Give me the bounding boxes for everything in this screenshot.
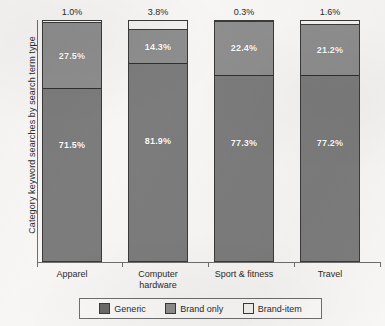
legend-item-brand-item[interactable]: Brand-item [243,303,302,314]
bar-total-label-sport-fitness: 0.3% [214,7,274,17]
bar-group-apparel[interactable]: 1.0% 27.5% 71.5% [42,20,102,262]
bar-segment-brand-item-computer-hardware[interactable]: 3.8% [129,21,187,30]
x-axis-tick-1 [122,263,123,267]
x-axis-tick-2 [208,263,209,267]
bar-segment-label-generic-sport-fitness: 77.3% [231,138,258,148]
bar-segment-label-brand-only-travel: 21.2% [317,45,344,55]
bar-segment-brand-only-sport-fitness[interactable]: 22.4% [215,22,273,76]
stacked-bar-travel[interactable]: 1.6% 21.2% 77.2% [300,20,360,262]
legend-swatch-generic-icon [99,303,110,314]
x-axis-tick-3 [294,263,295,267]
chart-legend: Generic Brand only Brand-item [79,298,322,319]
bar-group-sport-fitness[interactable]: 0.3% 22.4% 77.3% [214,20,274,262]
legend-item-brand-only[interactable]: Brand only [165,303,223,314]
bar-segment-brand-only-apparel[interactable]: 27.5% [43,23,101,89]
chart-figure: Category keyword searches by search term… [0,0,385,326]
bar-segment-label-generic-apparel: 71.5% [59,140,86,150]
bar-segment-generic-computer-hardware[interactable]: 81.9% [129,64,187,261]
plot-area: 1.0% 1.0% 27.5% 71.5% Apparel 3.8% [0,0,385,326]
x-axis-label-sport-fitness-line1: Sport & fitness [206,269,282,280]
bar-segment-brand-only-computer-hardware[interactable]: 14.3% [129,30,187,64]
legend-label-brand-item: Brand-item [258,304,302,314]
bar-segment-label-brand-only-apparel: 27.5% [59,51,86,61]
x-axis-tick-0 [37,263,38,267]
bar-total-label-computer-hardware: 3.8% [128,7,188,17]
x-axis-label-sport-fitness: Sport & fitness [206,269,282,280]
x-axis-label-travel: Travel [300,269,360,280]
bar-segment-label-generic-computer-hardware: 81.9% [145,136,172,146]
bar-segment-brand-only-travel[interactable]: 21.2% [301,25,359,76]
legend-label-brand-only: Brand only [180,304,223,314]
bar-segment-generic-travel[interactable]: 77.2% [301,76,359,261]
bar-group-computer-hardware[interactable]: 3.8% 14.3% 81.9% [128,20,188,262]
stacked-bar-sport-fitness[interactable]: 0.3% 22.4% 77.3% [214,20,274,262]
bar-group-travel[interactable]: 1.6% 21.2% 77.2% [300,20,360,262]
stacked-bar-apparel[interactable]: 1.0% 27.5% 71.5% [42,20,102,262]
legend-swatch-brand-item-icon [243,303,254,314]
bar-segment-generic-apparel[interactable]: 71.5% [43,89,101,261]
bar-segment-generic-sport-fitness[interactable]: 77.3% [215,76,273,261]
legend-swatch-brand-only-icon [165,303,176,314]
bar-segment-label-generic-travel: 77.2% [317,138,344,148]
bar-segment-label-brand-only-sport-fitness: 22.4% [231,43,258,53]
x-axis-label-computer-hardware-line1: Computer [124,269,192,280]
bar-total-label-travel: 1.6% [300,7,360,17]
bar-total-label-apparel: 1.0% [42,7,102,17]
stacked-bar-computer-hardware[interactable]: 3.8% 14.3% 81.9% [128,20,188,262]
x-axis-label-apparel-line1: Apparel [42,269,102,280]
x-axis-label-apparel: Apparel [42,269,102,280]
x-axis-tick-4 [380,263,381,267]
legend-item-generic[interactable]: Generic [99,303,146,314]
x-axis-label-computer-hardware-line2: hardware [124,280,192,291]
x-axis-label-computer-hardware: Computer hardware [124,269,192,291]
x-axis-label-travel-line1: Travel [300,269,360,280]
legend-label-generic: Generic [114,304,146,314]
bar-segment-label-brand-only-computer-hardware: 14.3% [145,42,172,52]
